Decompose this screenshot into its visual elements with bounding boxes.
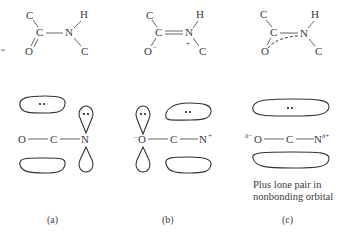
n-p-orbital-lower: [79, 147, 93, 172]
atom-n: N: [199, 133, 207, 145]
atom-c-methyl: C: [26, 9, 33, 21]
panel-b-structure: C C O − N + H C: [144, 8, 206, 57]
o-p-orbital-lower: [136, 147, 150, 172]
panel-b-label: (b): [162, 214, 174, 226]
atom-c-carbonyl: C: [270, 26, 277, 38]
atom-n: N: [314, 133, 322, 145]
n-delta-plus: δ+: [322, 132, 329, 140]
n-plus-charge: +: [208, 132, 212, 140]
atom-n: N: [81, 133, 89, 145]
atom-h: H: [196, 8, 204, 20]
pi-orbital-lower: [20, 158, 65, 173]
panel-c-label: (c): [282, 214, 293, 226]
atom-c-nmethyl: C: [199, 45, 206, 57]
atom-c-methyl: C: [146, 9, 153, 21]
delocalized-pi-orbital-lower: [253, 152, 329, 168]
atom-o: O: [254, 133, 262, 145]
atom-h: H: [311, 8, 319, 20]
atom-h: H: [80, 8, 88, 20]
pi-orbital-upper: [20, 96, 65, 113]
o-minus-charge: −: [134, 134, 138, 142]
panel-b-orbitals: O − C N + (b): [134, 103, 212, 226]
atom-o: O: [261, 45, 269, 57]
panel-c-orbitals: δ− O C N δ+ Plus lone pair in nonbonding…: [245, 99, 333, 226]
panel-a-label: (a): [47, 214, 58, 226]
atom-c-nmethyl: C: [315, 45, 322, 57]
lone-pair-note-line2: nonbonding orbital: [253, 191, 333, 202]
atom-c: C: [170, 133, 177, 145]
atom-c-carbonyl: C: [36, 26, 43, 38]
atom-o: O: [144, 45, 152, 57]
amide-resonance-diagram: C C O N H C C C O − N + H C C C O N H C: [0, 0, 347, 240]
atom-o: O: [25, 45, 33, 57]
atom-c-methyl: C: [260, 8, 267, 20]
atom-c: C: [50, 133, 57, 145]
pi-orbital-upper: [166, 103, 211, 120]
atom-c: C: [286, 133, 293, 145]
lone-pair-note-line1: Plus lone pair in: [253, 179, 322, 190]
atom-o: O: [138, 133, 146, 145]
o-p-orbital-upper: [136, 106, 150, 134]
n-p-orbital-upper: [79, 106, 93, 133]
atom-n: N: [300, 27, 308, 39]
atom-o: O: [18, 133, 26, 145]
n-plus-charge: +: [186, 40, 190, 48]
atom-n: N: [185, 26, 193, 38]
panel-c-structure: C C O N H C: [260, 8, 322, 57]
o-delta-minus: δ−: [245, 132, 252, 140]
panel-a-structure: C C O N H C: [25, 8, 88, 57]
pi-orbital-lower: [166, 157, 211, 173]
atom-c-carbonyl: C: [155, 26, 162, 38]
panel-a-orbitals: O C N (a): [18, 96, 93, 226]
atom-n: N: [65, 26, 73, 38]
o-minus-charge: −: [153, 44, 157, 52]
delocalized-pi-orbital-upper: [253, 99, 329, 116]
atom-c-nmethyl: C: [81, 45, 88, 57]
